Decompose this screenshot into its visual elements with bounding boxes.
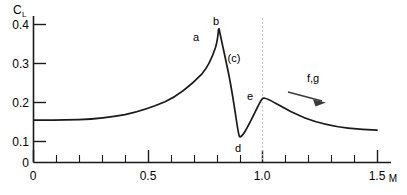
trend-direction-arrow-icon — [288, 92, 326, 107]
x-axis-major-ticks — [34, 150, 378, 162]
x-tick-label-1.5: 1.5 — [369, 169, 386, 183]
label-region-c: (c) — [228, 52, 241, 64]
y-tick-label-0.3: 0.3 — [12, 57, 29, 71]
y-tick-label-0.2: 0.2 — [12, 96, 29, 110]
x-tick-label-0: 0 — [30, 169, 37, 183]
y-axis-tick-labels: 0.4 0.3 0.2 0.1 0 — [12, 18, 29, 170]
x-tick-label-1.0: 1.0 — [254, 169, 271, 183]
y-axis-title: C L — [13, 3, 27, 19]
label-point-e: e — [247, 90, 253, 102]
chart-container: 0.4 0.3 0.2 0.1 0 C L — [0, 0, 407, 195]
label-point-a: a — [193, 31, 200, 43]
label-trend-fg: f,g — [307, 72, 319, 84]
axes-group — [34, 16, 392, 163]
y-tick-label-0.1: 0.1 — [12, 135, 29, 149]
label-point-b: b — [213, 15, 219, 27]
cl-vs-mach-chart: 0.4 0.3 0.2 0.1 0 C L — [0, 0, 407, 195]
label-point-d: d — [235, 142, 241, 154]
lift-coefficient-curve — [34, 29, 377, 137]
trend-arrow-shaft — [288, 92, 322, 101]
y-axis-title-subscript: L — [22, 10, 27, 19]
x-tick-label-0.5: 0.5 — [140, 169, 157, 183]
y-tick-label-0.4: 0.4 — [12, 18, 29, 32]
x-axis-tick-labels: 0 0.5 1.0 1.5 — [30, 169, 386, 183]
y-axis-title-main: C — [13, 3, 22, 17]
annotation-labels: a b (c) d e f,g — [193, 15, 319, 154]
y-tick-label-0: 0 — [22, 156, 29, 170]
x-axis-minor-ticks — [57, 155, 355, 162]
x-axis-title: M — [389, 173, 397, 184]
y-axis-ticks — [34, 25, 46, 142]
